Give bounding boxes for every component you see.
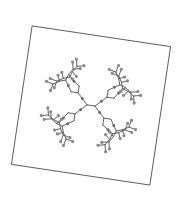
linker-atom [67, 84, 70, 87]
molecule-diagram [0, 0, 183, 197]
terminal-atom [62, 144, 66, 148]
terminal-atom [68, 136, 72, 140]
terminal-atom [49, 89, 53, 93]
bond [87, 105, 95, 106]
bond [107, 97, 114, 98]
bond [104, 118, 111, 119]
terminal-atom [130, 131, 134, 135]
terminal-atom [108, 147, 112, 151]
terminal-atom [82, 64, 86, 68]
terminal-atom [71, 60, 75, 64]
terminal-atom [107, 68, 111, 72]
linker-atom [113, 86, 116, 89]
figure-canvas: Branched dendrimer-like molecule drawn i… [0, 0, 183, 197]
terminal-atom [126, 121, 130, 125]
terminal-atom [134, 128, 138, 132]
terminal-atom [45, 80, 49, 84]
bond [71, 92, 78, 93]
terminal-atom [139, 94, 143, 98]
terminal-atom [75, 57, 79, 61]
terminal-atom [56, 73, 60, 77]
bond [68, 113, 75, 114]
terminal-atom [96, 143, 100, 147]
terminal-atom [48, 77, 52, 81]
terminal-atom [59, 140, 63, 144]
terminal-atom [53, 128, 57, 132]
terminal-atom [49, 110, 53, 114]
terminal-atom [46, 106, 50, 110]
terminal-atom [60, 71, 64, 75]
terminal-atom [120, 68, 124, 72]
linker-atom [112, 124, 115, 127]
terminal-atom [122, 134, 126, 138]
terminal-atom [136, 90, 140, 94]
bonds-layer [37, 55, 144, 155]
terminal-atom [118, 137, 122, 141]
terminal-atom [130, 119, 134, 123]
terminal-atom [100, 141, 104, 145]
terminal-atom [132, 101, 136, 105]
linker-atom [66, 122, 69, 125]
terminal-atom [104, 150, 108, 154]
bond [74, 114, 75, 121]
terminal-atom [40, 114, 44, 118]
terminal-atom [110, 72, 114, 76]
terminal-atom [117, 64, 121, 68]
rotated-group [11, 26, 170, 185]
terminal-atom [78, 67, 82, 71]
terminal-atom [42, 118, 46, 122]
bond [78, 86, 79, 93]
terminal-atom [129, 97, 133, 101]
terminal-atom [123, 75, 127, 79]
terminal-atom [71, 140, 75, 144]
bond [107, 90, 108, 97]
bond [103, 118, 104, 125]
terminal-atom [56, 132, 60, 136]
terminal-atom [52, 86, 56, 90]
terminal-atom [126, 79, 130, 83]
